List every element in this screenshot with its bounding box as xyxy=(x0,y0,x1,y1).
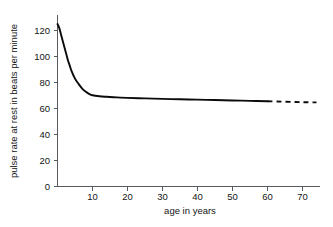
y-axis-tick-labels: 0 20 40 60 80 100 120 xyxy=(34,25,50,192)
y-axis-ticks xyxy=(54,31,58,187)
y-axis-title: pulse rate at rest in beats per minute xyxy=(8,24,19,178)
x-axis-title: age in years xyxy=(164,205,216,216)
x-tick-label-50: 50 xyxy=(227,191,238,202)
y-tick-label-40: 40 xyxy=(39,129,50,140)
x-tick-label-40: 40 xyxy=(192,191,203,202)
data-curve-dashed xyxy=(268,101,317,102)
x-tick-label-10: 10 xyxy=(87,191,98,202)
chart-canvas: 0 20 40 60 80 100 120 10 20 30 40 50 60 … xyxy=(0,0,333,227)
x-axis-tick-labels: 10 20 30 40 50 60 70 xyxy=(87,191,308,202)
x-axis-ticks xyxy=(93,187,303,191)
x-tick-label-70: 70 xyxy=(297,191,308,202)
pulse-rate-chart: 0 20 40 60 80 100 120 10 20 30 40 50 60 … xyxy=(0,0,333,227)
y-tick-label-120: 120 xyxy=(34,25,50,36)
y-tick-label-20: 20 xyxy=(39,155,50,166)
y-tick-label-80: 80 xyxy=(39,77,50,88)
x-tick-label-30: 30 xyxy=(157,191,168,202)
data-curve-solid xyxy=(58,24,268,101)
x-tick-label-20: 20 xyxy=(122,191,133,202)
x-tick-label-60: 60 xyxy=(262,191,273,202)
y-tick-label-60: 60 xyxy=(39,103,50,114)
y-tick-label-0: 0 xyxy=(45,181,50,192)
y-tick-label-100: 100 xyxy=(34,51,50,62)
